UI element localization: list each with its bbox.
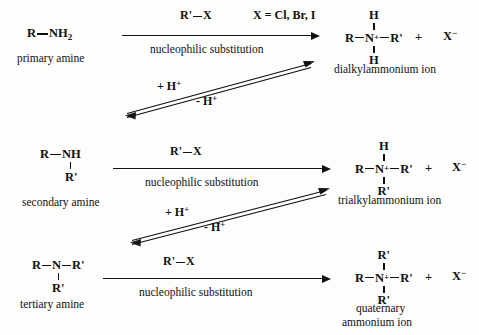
substituent-left: R <box>355 272 364 285</box>
equilibrium-1-label-above: + H+ <box>157 78 181 94</box>
bond-line <box>183 152 192 153</box>
bond-line <box>373 46 374 53</box>
bond-line <box>62 265 71 266</box>
dialkylammonium-caption: dialkylammonium ion <box>334 63 436 76</box>
bond-line <box>42 265 51 266</box>
bond-line <box>365 277 374 278</box>
reagent-alkyl: R' <box>180 8 192 22</box>
negative-charge: − <box>461 159 466 169</box>
ammonium-core-row2: H RN+R' R' <box>355 140 413 198</box>
bond-line <box>383 177 384 184</box>
tertiary-amine-structure: RNR' R' <box>32 259 85 294</box>
negative-charge: − <box>452 28 457 38</box>
mechanism-label-row1: nucleophilic substitution <box>150 43 263 55</box>
negative-charge: − <box>461 268 466 278</box>
halide-identity-note: X = Cl, Br, I <box>253 8 315 23</box>
substituent-right: R' <box>400 163 413 176</box>
secondary-amine-caption: secondary amine <box>22 196 100 209</box>
reagent-halide: X <box>186 254 195 268</box>
bond-line <box>383 263 384 270</box>
reagent-alkyl: R' <box>163 254 175 268</box>
secondary-amine-r: R <box>40 148 49 161</box>
secondary-amine-structure: RNH R' <box>40 148 81 183</box>
positive-charge: + <box>384 273 389 282</box>
bond-line <box>50 154 61 155</box>
substituent-left: R <box>345 32 354 45</box>
bond-line <box>383 286 384 293</box>
bond-line <box>390 168 399 169</box>
proton-charge: + <box>176 78 181 88</box>
plus-sign-row1: + <box>415 31 422 44</box>
primary-amine-r: R <box>27 26 36 40</box>
reaction-arrow-row1 <box>122 31 320 40</box>
primary-amine-subscript: 2 <box>68 32 73 42</box>
proton-charge: + <box>184 204 189 214</box>
halide-ion: X <box>452 160 461 174</box>
positive-charge: + <box>384 164 389 173</box>
equilibrium-1-label-below: - H+ <box>196 93 217 109</box>
reaction-scheme-diagram: RNH2 primary amine R'X X = Cl, Br, I nuc… <box>0 0 479 335</box>
dialkylammonium-structure: H RN+R' H <box>345 9 403 67</box>
tertiary-amine-r: R <box>32 259 41 272</box>
secondary-amine-below: R' <box>65 171 78 184</box>
bond-line <box>373 23 374 30</box>
trialkylammonium-caption: trialkylammonium ion <box>338 194 441 207</box>
substituent-right: R' <box>390 32 403 45</box>
counterion-row3: X− <box>452 269 466 282</box>
primary-amine-nh: NH <box>49 26 68 40</box>
nitrogen-atom: N <box>375 163 384 176</box>
substituent-top: H <box>379 140 389 153</box>
plus-sign-row3: + <box>425 271 432 284</box>
reagent-halide: X <box>203 8 212 22</box>
quaternary-ammonium-caption-line1: quaternary <box>356 302 405 315</box>
bond-line <box>176 262 185 263</box>
tertiary-amine-caption: tertiary amine <box>20 298 84 311</box>
substituent-right: R' <box>400 272 413 285</box>
trialkylammonium-structure: H RN+R' R' <box>355 140 413 198</box>
ammonium-core-row3: R' RN+R' R' <box>355 249 413 307</box>
bond-line <box>383 154 384 161</box>
secondary-amine-nh: NH <box>62 148 81 161</box>
substituent-top: R' <box>378 249 391 262</box>
substituent-left: R <box>355 163 364 176</box>
nitrogen-atom: N <box>375 272 384 285</box>
quaternary-ammonium-caption-line2: ammonium ion <box>342 316 412 329</box>
mechanism-label-row3: nucleophilic substitution <box>139 286 252 298</box>
proton-charge: + <box>212 93 217 103</box>
counterion-row1: X− <box>443 29 457 42</box>
bond-line <box>380 37 389 38</box>
substituent-top: H <box>369 9 379 22</box>
tertiary-amine-right: R' <box>72 259 85 272</box>
tertiary-amine-core: RNR' R' <box>32 259 85 294</box>
equilibrium-2-label-above: + H+ <box>165 204 189 220</box>
ammonium-core-row1: H RN+R' H <box>345 9 403 67</box>
proton-charge: + <box>220 219 225 229</box>
plus-sign-row2: + <box>425 162 432 175</box>
equilibrium-arrow-1 <box>125 58 325 120</box>
bond-line <box>355 37 364 38</box>
bond-line <box>70 162 71 169</box>
quaternary-ammonium-structure: R' RN+R' R' <box>355 249 413 307</box>
reagent-label-row2: R'X <box>170 144 202 159</box>
tertiary-amine-below: R' <box>52 282 65 295</box>
equilibrium-2-label-below: - H+ <box>204 219 225 235</box>
bond-line <box>37 33 48 34</box>
reagent-label-row3: R'X <box>163 254 195 269</box>
halide-ion: X <box>443 29 452 43</box>
reaction-arrow-row3 <box>103 274 331 283</box>
bond-line <box>58 273 59 280</box>
halide-ion: X <box>452 269 461 283</box>
bond-line <box>365 168 374 169</box>
reaction-arrow-row2 <box>113 164 331 173</box>
reagent-halide: X <box>193 144 202 158</box>
bond-line <box>390 277 399 278</box>
nitrogen-atom: N <box>52 259 61 272</box>
reagent-alkyl: R' <box>170 144 182 158</box>
positive-charge: + <box>374 33 379 42</box>
equilibrium-arrow-2 <box>130 185 340 247</box>
nitrogen-atom: N <box>365 32 374 45</box>
reagent-label-row1: R'X <box>180 8 212 23</box>
primary-amine-caption: primary amine <box>17 52 84 65</box>
counterion-row2: X− <box>452 160 466 173</box>
bond-line <box>193 16 202 17</box>
